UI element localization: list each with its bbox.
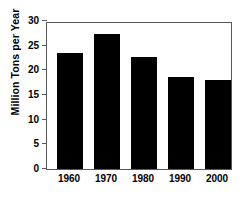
y-axis-tick: 30	[42, 20, 47, 21]
bar-1970	[94, 34, 120, 169]
x-axis-tick-label: 1960	[52, 173, 86, 184]
y-axis-tick-label: 0	[33, 162, 39, 175]
y-axis-tick: 10	[42, 119, 47, 120]
y-axis-tick-label: 30	[28, 14, 39, 27]
y-axis-tick-label: 20	[28, 63, 39, 76]
y-axis-tick-label: 25	[28, 39, 39, 52]
y-axis-tick: 15	[42, 94, 47, 95]
bar-1980	[131, 57, 157, 169]
y-axis-tick: 5	[42, 143, 47, 144]
x-axis-tick-label: 1990	[163, 173, 197, 184]
plot-area: 051015202530	[46, 22, 232, 170]
cropped-caption-strip	[0, 0, 240, 14]
bar-1990	[168, 77, 194, 169]
y-axis-tick: 25	[42, 45, 47, 46]
x-axis-tick-label: 2000	[200, 173, 234, 184]
x-axis-tick-label: 1970	[89, 173, 123, 184]
bar-chart-figure: Million Tons per Year 051015202530 19601…	[0, 0, 240, 199]
bar-1960	[57, 53, 83, 169]
y-axis-tick-label: 10	[28, 113, 39, 126]
y-axis-title: Million Tons per Year	[9, 0, 21, 132]
bar-2000	[205, 80, 231, 169]
x-axis-tick-label: 1980	[126, 173, 160, 184]
y-axis-tick: 20	[42, 69, 47, 70]
y-axis-tick: 0	[42, 168, 47, 169]
y-axis-tick-label: 15	[28, 88, 39, 101]
y-axis-tick-label: 5	[33, 137, 39, 150]
